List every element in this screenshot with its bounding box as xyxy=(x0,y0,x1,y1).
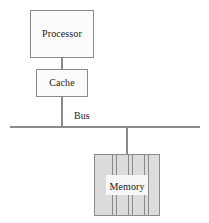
block-diagram: Processor Cache Bus Memory xyxy=(0,0,209,223)
cache-block: Cache xyxy=(36,69,88,97)
bus-line xyxy=(10,126,200,128)
bus-label: Bus xyxy=(74,111,90,121)
processor-label: Processor xyxy=(42,29,82,39)
memory-label: Memory xyxy=(109,181,144,192)
memory-label-plate: Memory xyxy=(106,175,147,195)
cache-bus-connector xyxy=(61,95,63,128)
processor-block: Processor xyxy=(30,10,94,58)
cache-label: Cache xyxy=(49,78,75,88)
memory-block: Memory xyxy=(94,154,160,216)
memory-stripe xyxy=(148,155,149,215)
bus-memory-connector xyxy=(126,126,128,156)
